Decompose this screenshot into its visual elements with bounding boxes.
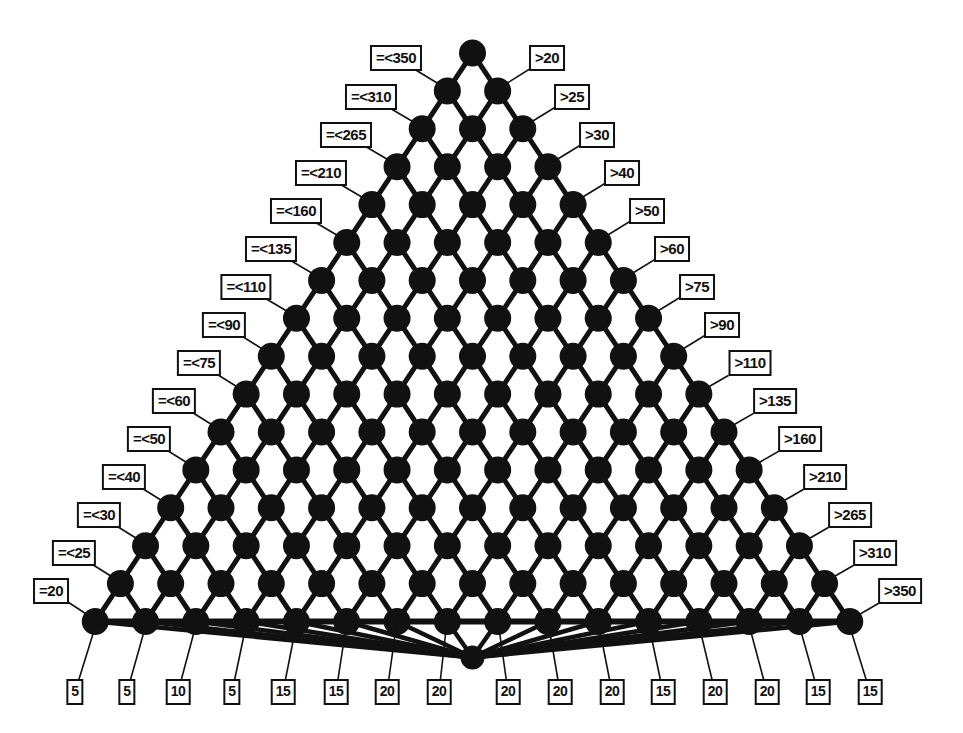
lattice-node [585,532,612,559]
lattice-node [509,267,536,294]
lattice-node [409,419,436,446]
lattice-node [409,570,436,597]
lattice-node [635,305,662,332]
lattice-node [358,191,385,218]
bottom-weight-label-13: 20 [755,679,780,705]
lattice-node [384,456,411,483]
left-threshold-label-5: =<135 [245,236,297,262]
bottom-weight-label-14: 15 [806,679,831,705]
lattice-node [434,532,461,559]
bottom-weight-label-7: 20 [427,679,452,705]
lattice-node [358,343,385,370]
lattice-node [459,494,486,521]
lattice-node [434,456,461,483]
lattice-node [660,494,687,521]
lattice-node [786,608,813,635]
lattice-node [484,305,511,332]
right-threshold-label-10: >160 [778,426,822,452]
lattice-node [459,40,486,67]
lattice-node [660,570,687,597]
lattice-node [333,381,360,408]
bottom-weight-label-3: 5 [223,679,240,705]
bottom-weight-label-6: 20 [375,679,400,705]
bottom-weight-label-11: 15 [651,679,676,705]
lattice-node [308,267,335,294]
lattice-node [132,532,159,559]
bottom-weight-label-12: 20 [703,679,728,705]
lattice-node [409,343,436,370]
lattice-node [258,419,285,446]
lattice-node [560,419,587,446]
lattice-node [585,305,612,332]
left-threshold-label-0: =<350 [370,45,422,71]
left-threshold-label-1: =<310 [345,84,397,110]
lattice-node [358,267,385,294]
lattice-node [283,456,310,483]
right-threshold-label-12: >265 [828,502,872,528]
bottom-weight-label-2: 10 [166,679,191,705]
lattice-node [434,229,461,256]
lattice-node [233,381,260,408]
lattice-node [409,191,436,218]
lattice-node [560,191,587,218]
lattice-graphic [0,0,963,733]
right-threshold-label-9: >135 [753,388,797,414]
lattice-node [333,229,360,256]
lattice-node [233,456,260,483]
lattice-node [484,532,511,559]
lattice-node [560,343,587,370]
lattice-node [258,494,285,521]
lattice-node [534,305,561,332]
lattice-node [132,608,159,635]
lattice-node [384,229,411,256]
lattice-node [434,153,461,180]
lattice-node [610,570,637,597]
lattice-node [107,570,134,597]
lattice-node [182,608,209,635]
right-threshold-label-0: >20 [529,45,565,71]
lattice-node [333,456,360,483]
lattice-node [409,115,436,142]
lattice-node [459,570,486,597]
lattice-node [685,381,712,408]
right-threshold-label-6: >75 [679,274,715,300]
left-threshold-label-14: =20 [33,578,69,604]
right-threshold-label-4: >50 [629,198,665,224]
lattice-node [660,419,687,446]
lattice-node [434,381,461,408]
right-threshold-label-14: >350 [878,578,922,604]
bottom-weight-label-1: 5 [118,679,135,705]
right-threshold-label-11: >210 [803,464,847,490]
lattice-node [610,343,637,370]
lattice-node [258,343,285,370]
right-threshold-label-3: >40 [604,160,640,186]
lattice-node [711,494,738,521]
lattice-node [711,570,738,597]
lattice-node [308,494,335,521]
lattice-node [610,419,637,446]
lattice-node [333,305,360,332]
lattice-node [484,229,511,256]
lattice-node [635,532,662,559]
lattice-node [484,456,511,483]
bottom-weight-label-10: 20 [600,679,625,705]
lattice-node [459,191,486,218]
bottom-weight-label-0: 5 [66,679,83,705]
lattice-node [82,608,109,635]
lattice-node [182,456,209,483]
lattice-node [736,532,763,559]
lattice-node [560,267,587,294]
right-threshold-label-2: >30 [579,122,615,148]
bottom-weight-label-4: 15 [271,679,296,705]
bottom-weight-label-15: 15 [858,679,883,705]
left-threshold-label-2: =<265 [320,122,372,148]
lattice-node [409,494,436,521]
lattice-node [509,570,536,597]
lattice-node [208,419,235,446]
lattice-node [333,532,360,559]
lattice-node [534,381,561,408]
bottom-weight-label-5: 15 [324,679,349,705]
lattice-node [509,191,536,218]
right-threshold-label-1: >25 [554,84,590,110]
lattice-node [208,494,235,521]
